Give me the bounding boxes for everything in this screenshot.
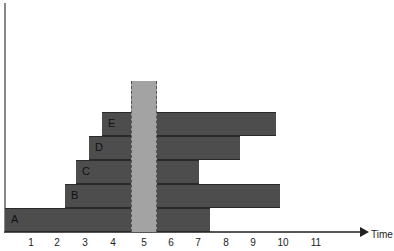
tick-4: 4 bbox=[105, 237, 121, 248]
bar-label: B bbox=[71, 189, 78, 201]
tick-2: 2 bbox=[49, 237, 65, 248]
bar-label: E bbox=[108, 117, 115, 129]
bar-label: A bbox=[11, 213, 18, 225]
tick-3: 3 bbox=[77, 237, 93, 248]
tick-8: 8 bbox=[218, 237, 234, 248]
x-axis-arrow-icon bbox=[360, 227, 369, 237]
bar-b: B bbox=[65, 184, 280, 208]
bar-a: A bbox=[5, 208, 210, 232]
tick-1: 1 bbox=[23, 237, 39, 248]
highlight-band bbox=[131, 81, 157, 232]
x-axis-label: Time bbox=[371, 229, 393, 240]
bar-label: D bbox=[95, 141, 103, 153]
bar-e: E bbox=[102, 112, 276, 136]
y-axis bbox=[4, 3, 6, 232]
tick-5: 5 bbox=[136, 237, 152, 248]
tick-11: 11 bbox=[308, 237, 324, 248]
tick-9: 9 bbox=[245, 237, 261, 248]
tick-6: 6 bbox=[163, 237, 179, 248]
bar-label: C bbox=[82, 165, 90, 177]
tick-7: 7 bbox=[190, 237, 206, 248]
tick-10: 10 bbox=[275, 237, 291, 248]
bar-d: D bbox=[89, 136, 240, 160]
